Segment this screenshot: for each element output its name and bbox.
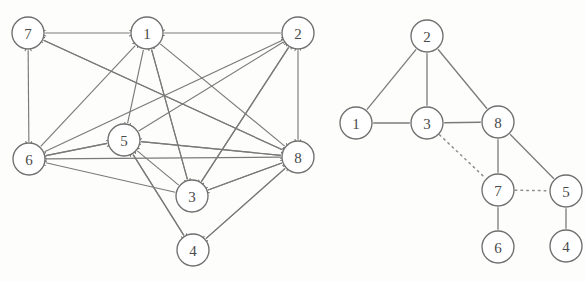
graph-figure-canvas: 7126583421387564 xyxy=(0,0,586,281)
edge-7-5 xyxy=(515,190,549,191)
edge-3-6 xyxy=(46,163,175,192)
node-label-2: 2 xyxy=(294,26,302,42)
node-1[interactable]: 1 xyxy=(131,17,163,49)
node-8[interactable]: 8 xyxy=(482,106,514,138)
node-7[interactable]: 7 xyxy=(482,174,514,206)
node-3[interactable]: 3 xyxy=(176,180,208,212)
node-5[interactable]: 5 xyxy=(550,175,582,207)
edge-3-8 xyxy=(444,122,481,123)
node-4[interactable]: 4 xyxy=(550,230,582,262)
edge-7-6 xyxy=(28,50,29,142)
node-label-6: 6 xyxy=(494,240,502,256)
node-4[interactable]: 4 xyxy=(177,234,209,266)
node-label-7: 7 xyxy=(494,183,502,199)
node-label-5: 5 xyxy=(562,184,570,200)
node-label-2: 2 xyxy=(423,29,431,45)
edge-3-5 xyxy=(137,151,178,185)
edge-8-5 xyxy=(510,134,554,179)
node-label-4: 4 xyxy=(562,239,570,255)
node-label-8: 8 xyxy=(494,115,502,131)
node-2[interactable]: 2 xyxy=(411,20,443,52)
node-label-3: 3 xyxy=(188,189,196,205)
node-label-8: 8 xyxy=(294,150,302,166)
node-6[interactable]: 6 xyxy=(482,231,514,263)
edge-6-5 xyxy=(46,143,107,155)
node-label-5: 5 xyxy=(120,133,128,149)
node-8[interactable]: 8 xyxy=(282,141,314,173)
node-1[interactable]: 1 xyxy=(340,107,372,139)
node-label-4: 4 xyxy=(189,243,197,259)
node-7[interactable]: 7 xyxy=(12,17,44,49)
edge-2-8 xyxy=(438,49,487,108)
edge-3-7 xyxy=(440,135,486,178)
node-label-1: 1 xyxy=(143,26,151,42)
node-6[interactable]: 6 xyxy=(13,143,45,175)
node-label-1: 1 xyxy=(352,116,360,132)
node-3[interactable]: 3 xyxy=(411,107,443,139)
node-5[interactable]: 5 xyxy=(108,124,140,156)
edge-8-4 xyxy=(206,168,285,238)
node-label-7: 7 xyxy=(24,26,32,42)
node-label-6: 6 xyxy=(25,152,33,168)
node-label-3: 3 xyxy=(423,116,431,132)
edge-2-3 xyxy=(201,47,288,181)
edge-2-1 xyxy=(367,49,416,109)
edge-8-6 xyxy=(46,157,281,159)
edge-1-8 xyxy=(160,44,284,146)
nodes-layer: 7126583421387564 xyxy=(12,17,582,266)
node-2[interactable]: 2 xyxy=(282,17,314,49)
figure-root: 7126583421387564 xyxy=(0,0,586,281)
edge-1-3 xyxy=(152,50,188,180)
edge-5-8 xyxy=(141,142,281,156)
edge-8-3 xyxy=(208,163,282,190)
